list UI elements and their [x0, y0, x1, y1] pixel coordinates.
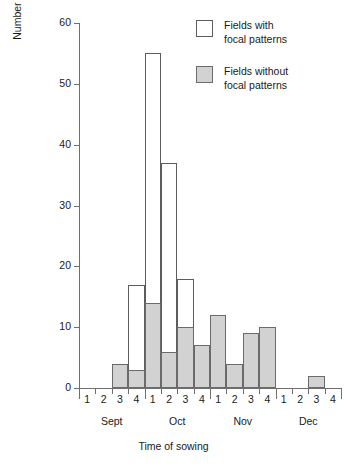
legend-swatch-open	[196, 20, 213, 37]
x-bin-label: 4	[194, 392, 210, 406]
y-tick-mark	[74, 266, 79, 267]
x-bin-label: 4	[259, 392, 275, 406]
y-axis-line	[79, 23, 80, 388]
x-month-label: Dec	[276, 414, 342, 428]
legend-label: Fields without focal patterns	[224, 65, 288, 92]
y-axis-title: Number of fields	[6, 0, 28, 184]
y-tick-label: 30	[59, 199, 71, 212]
legend-label: Fields with focal patterns	[224, 19, 287, 46]
bar	[161, 352, 177, 389]
y-tick-label: 50	[59, 77, 71, 90]
bar	[194, 345, 210, 388]
y-tick-mark	[74, 145, 79, 146]
chart-figure: 0102030405060 1234123412341234 SeptOctNo…	[0, 0, 347, 468]
x-bin-label: 3	[243, 392, 259, 406]
bar	[177, 327, 194, 388]
x-bin-label: 1	[210, 392, 226, 406]
x-bin-label: 1	[145, 392, 161, 406]
y-tick-mark	[74, 327, 79, 328]
bar	[112, 364, 128, 388]
x-month-label: Nov	[210, 414, 276, 428]
x-bin-label: 4	[128, 392, 144, 406]
x-bin-label: 3	[112, 392, 128, 406]
bar	[226, 364, 243, 388]
y-tick-label: 40	[59, 138, 71, 151]
y-tick-mark	[74, 84, 79, 85]
x-bin-label: 2	[161, 392, 177, 406]
legend-item: Fields with focal patterns	[196, 19, 344, 46]
bar	[128, 370, 145, 388]
x-bin-label: 1	[276, 392, 292, 406]
x-month-label: Oct	[145, 414, 211, 428]
bar	[308, 376, 325, 388]
y-tick-label: 0	[65, 381, 71, 394]
x-tick-mark	[341, 388, 342, 399]
x-bin-label: 1	[79, 392, 95, 406]
x-bin-label: 3	[308, 392, 324, 406]
bar	[210, 315, 226, 388]
y-tick-label: 60	[59, 16, 71, 29]
y-tick-label: 20	[59, 259, 71, 272]
legend-swatch-filled	[196, 66, 213, 83]
legend-item: Fields without focal patterns	[196, 65, 344, 92]
x-bin-label: 3	[177, 392, 193, 406]
x-month-label: Sept	[79, 414, 145, 428]
bar	[243, 333, 259, 388]
y-tick-mark	[74, 206, 79, 207]
x-bin-label: 2	[292, 392, 308, 406]
x-bin-label: 4	[325, 392, 341, 406]
y-tick-mark	[74, 23, 79, 24]
y-tick-label: 10	[59, 320, 71, 333]
x-axis-title: Time of sowing	[0, 440, 347, 452]
chart-legend: Fields with focal patternsFields without…	[196, 19, 344, 111]
x-bin-label: 2	[226, 392, 242, 406]
bar	[259, 327, 276, 388]
x-bin-label: 2	[95, 392, 111, 406]
bar	[145, 303, 161, 388]
